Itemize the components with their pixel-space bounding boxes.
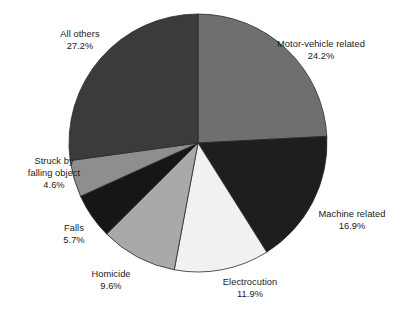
slice-label-name: Electrocution xyxy=(196,276,304,288)
slice-label-name: Motor-vehicle related xyxy=(246,38,396,50)
slice-label-homicide: Homicide 9.6% xyxy=(70,268,152,292)
slice-label-all-others: All others 27.2% xyxy=(34,28,126,52)
slice-label-name: All others xyxy=(34,28,126,40)
slice-label-name: Falls xyxy=(46,222,102,234)
slice-label-percent: 9.6% xyxy=(70,280,152,292)
slice-label-electrocution: Electrocution 11.9% xyxy=(196,276,304,300)
slice-label-falls: Falls 5.7% xyxy=(46,222,102,246)
slice-label-percent: 24.2% xyxy=(246,50,396,62)
slice-label-name: Homicide xyxy=(70,268,152,280)
slice-label-percent: 11.9% xyxy=(196,288,304,300)
slice-label-machine-related: Machine related 16.9% xyxy=(300,208,404,232)
slice-label-motor-vehicle-related: Motor-vehicle related 24.2% xyxy=(246,38,396,62)
slice-label-percent: 4.6% xyxy=(6,179,102,191)
slice-label-percent: 27.2% xyxy=(34,40,126,52)
slice-label-struck-by-falling-object: Struck by falling object 4.6% xyxy=(6,155,102,192)
slice-label-percent: 16.9% xyxy=(300,220,404,232)
slice-label-percent: 5.7% xyxy=(46,234,102,246)
pie-chart-figure: Motor-vehicle related 24.2% Machine rela… xyxy=(0,0,404,319)
slice-label-name: Machine related xyxy=(300,208,404,220)
pie-slice xyxy=(198,14,327,143)
slice-label-name: Struck by falling object xyxy=(6,155,102,179)
